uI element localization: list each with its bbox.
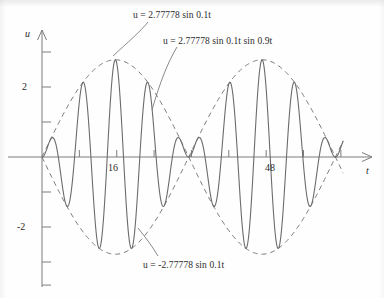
leader-line-beat-curve bbox=[152, 47, 177, 110]
axes-group bbox=[8, 30, 372, 287]
y-axis-name: u bbox=[25, 28, 30, 39]
leader-line-upper-envelope bbox=[113, 22, 148, 56]
beat-curve-label: u = 2.77778 sin 0.1t sin 0.9t bbox=[163, 36, 272, 46]
y-tick-label-2: 2 bbox=[22, 81, 27, 92]
upper-envelope-label: u = 2.77778 sin 0.1t bbox=[133, 10, 211, 20]
y-tick-label-negative-2: -2 bbox=[17, 221, 25, 232]
x-axis-name: t bbox=[366, 165, 369, 176]
x-tick-label-16: 16 bbox=[108, 162, 118, 173]
beat-oscillation-chart: u t 16 48 2 -2 u = 2.77778 sin 0.1t u = … bbox=[0, 0, 384, 298]
x-tick-label-48: 48 bbox=[265, 162, 275, 173]
lower-envelope-label: u = -2.77778 sin 0.1t bbox=[143, 260, 224, 270]
